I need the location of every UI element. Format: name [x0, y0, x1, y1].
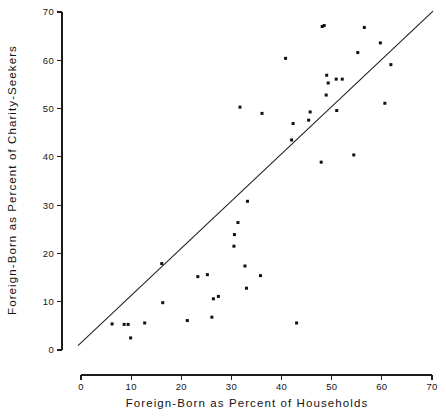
- data-point: [284, 57, 287, 60]
- data-point: [290, 138, 293, 141]
- data-point: [335, 109, 338, 112]
- x-axis: 010203040506070: [78, 375, 437, 392]
- data-point: [259, 274, 262, 277]
- reference-line-path: [78, 11, 433, 346]
- y-axis-title: Foreign-Born as Percent of Charity-Seeke…: [6, 45, 18, 315]
- plot-canvas: 010203040506070 010203040506070 Foreign-…: [0, 0, 446, 418]
- data-point: [243, 264, 246, 267]
- reference-line: [78, 11, 433, 346]
- x-axis-tick-label: 30: [226, 381, 237, 392]
- x-axis-tick-label: 10: [126, 381, 137, 392]
- y-axis-tick-label: 40: [43, 151, 54, 162]
- data-point: [212, 297, 215, 300]
- y-axis-tick-label: 0: [48, 344, 54, 355]
- data-point: [325, 74, 328, 77]
- data-point: [341, 78, 344, 81]
- x-axis-tick-label: 50: [326, 381, 337, 392]
- data-point: [363, 26, 366, 29]
- data-point: [186, 319, 189, 322]
- x-axis-tick-label: 70: [426, 381, 437, 392]
- data-point: [309, 110, 312, 113]
- x-axis-tick-label: 0: [78, 381, 84, 392]
- data-point: [356, 51, 359, 54]
- y-axis-tick-label: 60: [43, 55, 54, 66]
- x-axis-tick-label: 60: [376, 381, 387, 392]
- data-point: [111, 322, 114, 325]
- data-point: [245, 287, 248, 290]
- data-point: [236, 221, 239, 224]
- data-point: [325, 94, 328, 97]
- data-point: [127, 323, 130, 326]
- scatter-plot-figure: 010203040506070 010203040506070 Foreign-…: [0, 0, 446, 418]
- y-axis-tick-label: 20: [43, 248, 54, 259]
- data-point: [233, 233, 236, 236]
- data-point: [352, 153, 355, 156]
- y-axis-tick-label: 50: [43, 103, 54, 114]
- data-point: [320, 161, 323, 164]
- x-axis-title: Foreign-Born as Percent of Households: [126, 397, 369, 409]
- data-point: [307, 119, 310, 122]
- data-point: [261, 112, 264, 115]
- data-point: [323, 24, 326, 27]
- x-axis-tick-label: 20: [176, 381, 187, 392]
- data-point: [232, 245, 235, 248]
- data-point: [238, 106, 241, 109]
- data-point: [129, 336, 132, 339]
- y-axis-tick-label: 10: [43, 296, 54, 307]
- data-point: [335, 78, 338, 81]
- data-point: [246, 200, 249, 203]
- data-point: [379, 41, 382, 44]
- data-point: [206, 273, 209, 276]
- data-point: [327, 81, 330, 84]
- data-point: [196, 275, 199, 278]
- data-point: [160, 262, 163, 265]
- y-axis-tick-label: 30: [43, 200, 54, 211]
- y-axis-tick-label: 70: [43, 6, 54, 17]
- data-point: [217, 295, 220, 298]
- data-point: [123, 323, 126, 326]
- data-point: [389, 63, 392, 66]
- data-point: [292, 122, 295, 125]
- data-point: [383, 102, 386, 105]
- x-axis-tick-label: 40: [276, 381, 287, 392]
- data-point: [161, 301, 164, 304]
- y-axis: 010203040506070: [43, 6, 62, 355]
- data-point: [295, 321, 298, 324]
- data-point: [210, 316, 213, 319]
- data-point: [143, 321, 146, 324]
